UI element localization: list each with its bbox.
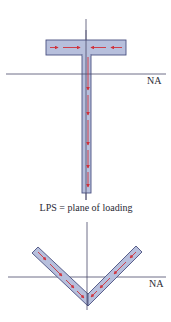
angle-right-leg (88, 246, 142, 306)
diagram-canvas: NA LPS = plane of loading NA (0, 0, 171, 322)
t-section-figure: NA (6, 19, 166, 200)
na-label-top: NA (147, 75, 162, 86)
angle-left-leg (32, 247, 88, 306)
caption: LPS = plane of loading (40, 202, 133, 213)
t-web (82, 55, 91, 193)
v-angle-figure: NA (8, 222, 166, 310)
na-label-bottom: NA (149, 278, 164, 289)
